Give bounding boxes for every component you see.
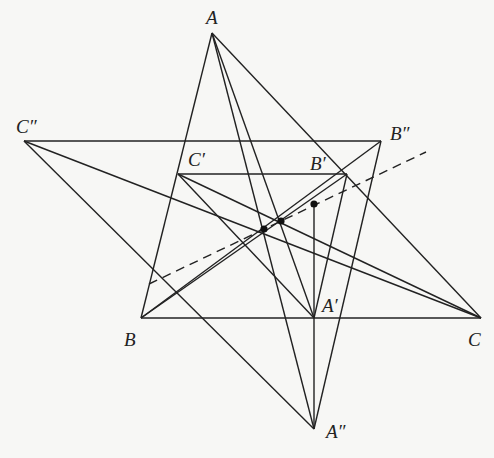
label-b1: B′ bbox=[310, 153, 327, 174]
marked-point-1 bbox=[277, 217, 284, 224]
geometry-figure: ABCA′B′C′A″B″C″ bbox=[0, 0, 494, 458]
segment-c2-a2 bbox=[24, 141, 314, 429]
marked-point-2 bbox=[310, 200, 317, 207]
segments bbox=[24, 33, 481, 429]
label-b2: B″ bbox=[390, 123, 411, 144]
label-a2: A″ bbox=[324, 421, 347, 442]
label-a: A bbox=[204, 7, 218, 28]
marked-point-0 bbox=[260, 225, 267, 232]
label-c1: C′ bbox=[188, 149, 206, 170]
dashed-line-segment bbox=[149, 152, 426, 284]
label-b: B bbox=[124, 329, 136, 350]
segment-a-a1 bbox=[212, 33, 314, 318]
dashed-line bbox=[149, 152, 426, 284]
label-c2: C″ bbox=[16, 116, 38, 137]
label-c: C bbox=[468, 329, 481, 350]
segment-b2-a2 bbox=[314, 141, 381, 429]
segment-c-c2 bbox=[24, 141, 481, 318]
label-a1: A′ bbox=[320, 295, 339, 316]
